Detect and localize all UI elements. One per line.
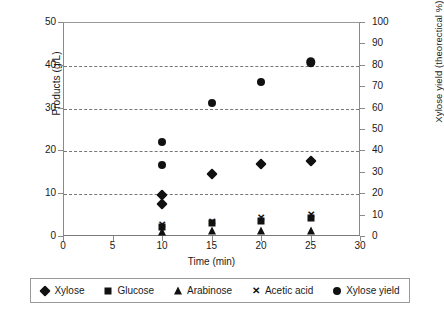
y-tick-right-70: 70	[372, 81, 406, 91]
y-tick-left-0: 0	[22, 231, 56, 241]
legend-label-xylose: Xylose	[54, 285, 84, 296]
y-tick-left-20: 20	[22, 145, 56, 155]
tick-mark-x-20	[261, 236, 262, 241]
tick-mark-left-10	[58, 193, 63, 194]
y-tick-right-50: 50	[372, 124, 406, 134]
square-marker-icon	[103, 286, 113, 296]
x-tick-20: 20	[246, 241, 276, 251]
y-tick-left-50: 50	[22, 17, 56, 27]
gridline-20	[64, 151, 359, 152]
tick-mark-right-80	[360, 65, 365, 66]
x-tick-0: 0	[48, 241, 78, 251]
y-tick-right-80: 80	[372, 60, 406, 70]
tick-mark-right-100	[360, 22, 365, 23]
y-tick-right-100: 100	[372, 17, 406, 27]
x-tick-10: 10	[147, 241, 177, 251]
legend-label-acetic-acid: Acetic acid	[265, 285, 313, 296]
x-tick-30: 30	[345, 241, 375, 251]
gridline-30	[64, 109, 359, 110]
legend-label-arabinose: Arabinose	[187, 285, 232, 296]
tick-mark-right-30	[360, 172, 365, 173]
tick-mark-right-50	[360, 129, 365, 130]
tick-mark-left-30	[58, 108, 63, 109]
y-tick-right-20: 20	[372, 188, 406, 198]
gridline-10	[64, 194, 359, 195]
y-tick-left-10: 10	[22, 188, 56, 198]
y-axis-title-left: Products (g/L)	[51, 24, 62, 144]
tick-mark-x-25	[311, 236, 312, 241]
cross-marker-icon: ✕	[251, 286, 261, 296]
y-tick-left-40: 40	[22, 60, 56, 70]
tick-mark-x-5	[113, 236, 114, 241]
diamond-marker-icon	[40, 286, 50, 296]
tick-mark-right-10	[360, 215, 365, 216]
x-tick-25: 25	[296, 241, 326, 251]
y-tick-right-0: 0	[372, 231, 406, 241]
y-tick-right-90: 90	[372, 38, 406, 48]
legend-label-xylose-yield: Xylose yield	[346, 285, 399, 296]
y-axis-title-right: Xylose yield (theorectical %)	[433, 0, 444, 152]
tick-mark-x-15	[212, 236, 213, 241]
tick-mark-left-20	[58, 150, 63, 151]
y-tick-right-60: 60	[372, 103, 406, 113]
tick-mark-right-70	[360, 86, 365, 87]
y-tick-right-40: 40	[372, 145, 406, 155]
tick-mark-x-30	[360, 236, 361, 241]
legend-item-xylose[interactable]: Xylose	[40, 285, 84, 296]
plot-area	[63, 22, 360, 236]
y-tick-right-30: 30	[372, 167, 406, 177]
tick-mark-right-20	[360, 193, 365, 194]
tick-mark-x-0	[63, 236, 64, 241]
legend-item-xylose-yield[interactable]: Xylose yield	[332, 285, 399, 296]
gridline-40	[64, 66, 359, 67]
legend-item-arabinose[interactable]: Arabinose	[173, 285, 232, 296]
tick-mark-right-90	[360, 43, 365, 44]
circle-marker-icon	[332, 286, 342, 296]
y-tick-left-30: 30	[22, 103, 56, 113]
x-axis-title: Time (min)	[63, 256, 360, 267]
tick-mark-x-10	[162, 236, 163, 241]
tick-mark-right-40	[360, 150, 365, 151]
tick-mark-left-40	[58, 65, 63, 66]
legend-label-glucose: Glucose	[117, 285, 154, 296]
tick-mark-right-60	[360, 108, 365, 109]
triangle-marker-icon	[173, 286, 183, 296]
y-tick-right-10: 10	[372, 210, 406, 220]
x-tick-5: 5	[98, 241, 128, 251]
legend-item-glucose[interactable]: Glucose	[103, 285, 154, 296]
chart-legend: Xylose Glucose Arabinose ✕ Acetic acid X…	[30, 278, 410, 303]
tick-mark-left-50	[58, 22, 63, 23]
x-tick-15: 15	[197, 241, 227, 251]
legend-item-acetic-acid[interactable]: ✕ Acetic acid	[251, 285, 313, 296]
